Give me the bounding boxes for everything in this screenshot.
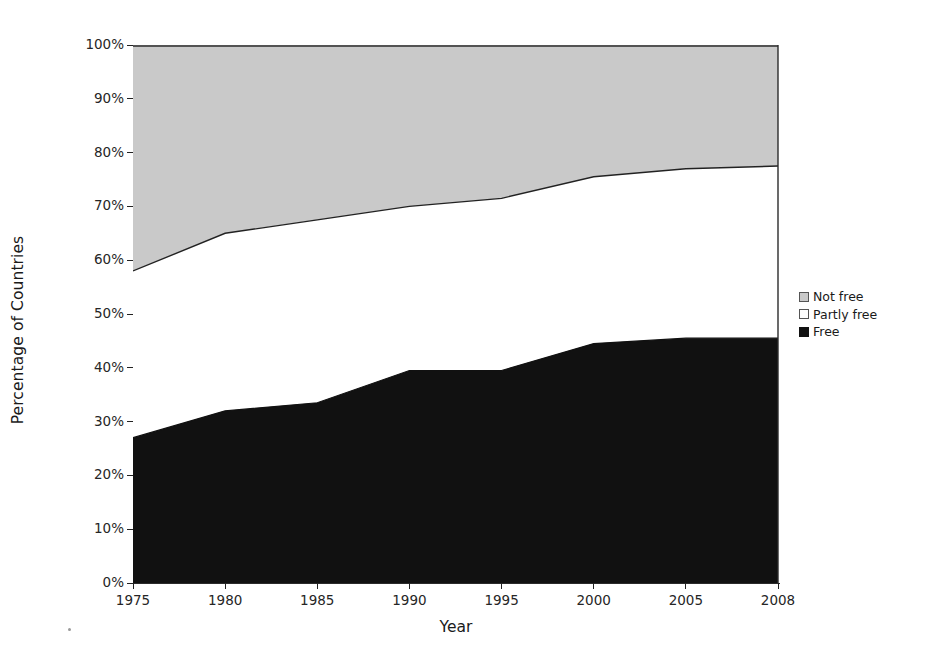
x-tick-mark xyxy=(593,583,594,589)
y-tick-label: 30% xyxy=(60,413,124,429)
free-swatch-icon xyxy=(799,327,809,337)
chart-legend: Not free Partly free Free xyxy=(799,288,877,341)
y-tick-mark xyxy=(127,206,133,207)
x-axis-line xyxy=(133,583,780,584)
legend-item-not-free: Not free xyxy=(799,288,877,306)
area-chart: Percentage of Countries 100%90%80%70%60%… xyxy=(0,0,931,660)
legend-item-free: Free xyxy=(799,323,877,341)
x-tick-mark xyxy=(317,583,318,589)
x-tick-mark xyxy=(225,583,226,589)
y-tick-mark xyxy=(127,152,133,153)
x-tick-label: 1985 xyxy=(287,592,347,608)
plot-area xyxy=(133,45,779,583)
y-tick-label: 70% xyxy=(60,197,124,213)
y-tick-mark xyxy=(127,314,133,315)
legend-label-free: Free xyxy=(813,323,840,341)
x-tick-label: 2008 xyxy=(748,592,808,608)
y-tick-label: 0% xyxy=(60,574,124,590)
y-tick-mark xyxy=(127,421,133,422)
x-axis-title: Year xyxy=(133,618,779,636)
partlyfree-swatch-icon xyxy=(799,309,809,319)
y-tick-mark xyxy=(127,475,133,476)
y-tick-mark xyxy=(127,98,133,99)
y-tick-label: 90% xyxy=(60,90,124,106)
y-tick-label: 100% xyxy=(60,36,124,52)
plot-svg xyxy=(133,45,779,583)
x-tick-label: 2000 xyxy=(564,592,624,608)
x-tick-mark xyxy=(685,583,686,589)
y-tick-mark xyxy=(127,45,133,46)
x-tick-label: 1995 xyxy=(472,592,532,608)
y-tick-mark xyxy=(127,260,133,261)
x-tick-label: 1980 xyxy=(195,592,255,608)
x-tick-label: 2005 xyxy=(656,592,716,608)
y-tick-label: 10% xyxy=(60,520,124,536)
legend-label-not-free: Not free xyxy=(813,288,864,306)
y-tick-label: 20% xyxy=(60,466,124,482)
legend-label-partly-free: Partly free xyxy=(813,306,877,324)
x-tick-mark xyxy=(133,583,134,589)
y-tick-label: 80% xyxy=(60,144,124,160)
y-tick-label: 60% xyxy=(60,251,124,267)
y-tick-label: 40% xyxy=(60,359,124,375)
y-tick-mark xyxy=(127,529,133,530)
page-speck xyxy=(68,628,71,631)
x-tick-mark xyxy=(409,583,410,589)
y-tick-label: 50% xyxy=(60,305,124,321)
x-tick-label: 1975 xyxy=(103,592,163,608)
x-tick-mark xyxy=(778,583,779,589)
x-tick-label: 1990 xyxy=(379,592,439,608)
y-axis-title: Percentage of Countries xyxy=(9,236,27,425)
notfree-swatch-icon xyxy=(799,292,809,302)
legend-item-partly-free: Partly free xyxy=(799,306,877,324)
y-tick-mark xyxy=(127,367,133,368)
x-tick-mark xyxy=(501,583,502,589)
